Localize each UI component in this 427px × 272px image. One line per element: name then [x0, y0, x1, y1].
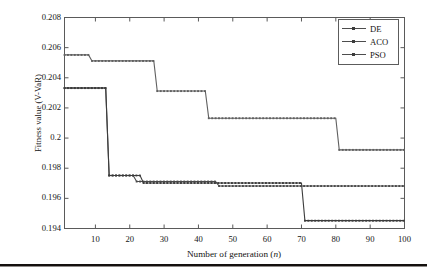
x-axis-title-suffix: ): [278, 249, 281, 259]
legend-swatch-de-icon: [342, 24, 366, 34]
page-bottom-rule-secondary: [0, 266, 427, 267]
legend-swatch-pso-icon: [342, 50, 366, 60]
chart-legend[interactable]: DE ACO PSO: [338, 19, 399, 65]
legend-label-de: DE: [366, 24, 381, 34]
x-axis-tick-labels: 102030405060708090100: [0, 230, 427, 246]
legend-item-de[interactable]: DE: [339, 22, 398, 35]
data-series-group: [64, 54, 405, 222]
legend-swatch-aco-icon: [342, 37, 366, 47]
legend-item-aco[interactable]: ACO: [339, 35, 398, 48]
legend-label-aco: ACO: [366, 37, 388, 47]
x-axis-title-prefix: Number of generation (: [187, 249, 273, 259]
chart-figure: Fitness value (V-VaR) 0.1940.1960.1980.2…: [0, 0, 427, 272]
x-tick-label: 100: [385, 234, 425, 244]
legend-item-pso[interactable]: PSO: [339, 48, 398, 61]
legend-label-pso: PSO: [366, 50, 386, 60]
x-axis-title: Number of generation (n): [64, 249, 404, 259]
